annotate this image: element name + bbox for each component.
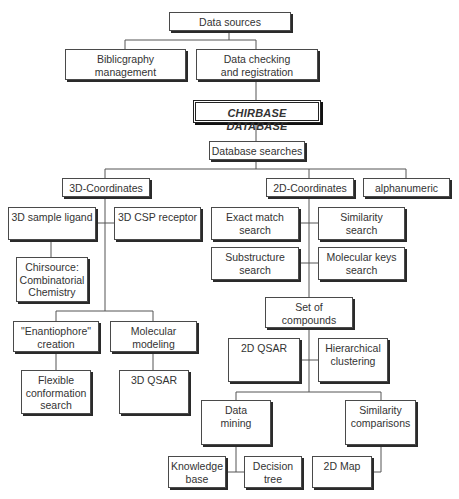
node-molecular-keys-search: Molecular keys search <box>318 247 405 280</box>
node-3d-qsar: 3D QSAR <box>119 370 189 414</box>
node-enantiophore-creation: "Enantiophore" creation <box>13 321 99 352</box>
node-hierarchical-clustering: Hierarchical clustering <box>318 338 388 382</box>
node-bibliography-management: Biblicgraphy management <box>65 49 186 80</box>
node-database-searches: Database searches <box>209 141 305 160</box>
node-data-mining: Data mining <box>201 400 271 445</box>
node-chirbase-database: CHIRBASE DATABASE <box>193 100 321 123</box>
node-data-checking: Data checking and registration <box>196 49 318 80</box>
node-3d-sample-ligand: 3D sample ligand <box>8 207 96 240</box>
node-data-sources: Data sources <box>169 12 291 31</box>
node-2d-qsar: 2D QSAR <box>228 338 300 382</box>
node-similarity-comparisons: Similarity comparisons <box>345 400 416 445</box>
node-flexible-conformation-search: Flexible conformation search <box>21 370 91 414</box>
node-set-of-compounds: Set of compounds <box>265 297 353 328</box>
node-substructure-search: Substructure search <box>211 247 299 280</box>
node-alphanumeric: alphanumeric <box>363 178 450 197</box>
node-chirsource: Chirsource: Combinatorial Chemistry <box>16 257 88 302</box>
node-3d-coordinates: 3D-Coordinates <box>62 178 150 197</box>
node-3d-csp-receptor: 3D CSP receptor <box>114 207 201 240</box>
node-knowledge-base: Knowledge base <box>168 456 226 488</box>
node-2d-map: 2D Map <box>312 456 372 488</box>
node-2d-coordinates: 2D-Coordinates <box>266 178 354 197</box>
node-similarity-search: Similarity search <box>318 207 405 240</box>
flowchart: Data sources Biblicgraphy management Dat… <box>0 0 459 499</box>
node-molecular-modeling: Molecular modeling <box>110 321 197 352</box>
node-decision-tree: Decision tree <box>244 456 302 488</box>
node-exact-match-search: Exact match search <box>211 207 299 240</box>
